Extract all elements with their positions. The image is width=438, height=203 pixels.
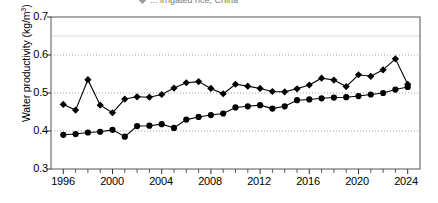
- data-point-marker: [318, 75, 325, 82]
- data-point-marker: [196, 114, 202, 120]
- axis-ticks: [47, 17, 408, 174]
- x-tick-label: 2008: [190, 176, 230, 187]
- data-point-marker: [257, 102, 263, 108]
- x-tick-label: 1996: [43, 176, 83, 187]
- x-tick-label: 2024: [386, 176, 426, 187]
- data-point-marker: [293, 85, 300, 92]
- data-point-marker: [269, 105, 275, 111]
- data-point-marker: [159, 121, 165, 127]
- data-point-marker: [146, 123, 152, 129]
- data-point-marker: [208, 112, 214, 118]
- data-point-marker: [405, 84, 411, 90]
- data-point-marker: [85, 129, 91, 135]
- data-point-marker: [294, 97, 300, 103]
- data-point-marker: [60, 101, 67, 108]
- x-tick-label: 2020: [337, 176, 377, 187]
- data-point-marker: [72, 107, 79, 114]
- data-point-marker: [367, 73, 374, 80]
- chart-figure: ... irrigated rice, China Water producti…: [0, 0, 438, 203]
- data-point-marker: [368, 91, 374, 97]
- data-point-marker: [319, 95, 325, 101]
- data-point-marker: [331, 94, 337, 100]
- data-point-marker: [306, 81, 313, 88]
- data-point-marker: [232, 104, 238, 110]
- data-point-marker: [392, 86, 398, 92]
- data-point-marker: [330, 76, 337, 83]
- y-tick-labels: 0.7 0.6 0.5 0.4 0.3: [18, 0, 48, 203]
- x-tick-labels: 1996 2000 2004 2008 2012 2016 2020 2024: [0, 176, 438, 196]
- data-point-marker: [146, 94, 153, 101]
- data-point-marker: [257, 85, 264, 92]
- data-point-marker: [220, 110, 226, 116]
- data-point-marker: [134, 93, 141, 100]
- y-tick-label: 0.3: [22, 163, 48, 174]
- data-point-marker: [60, 132, 66, 138]
- data-point-marker: [122, 134, 128, 140]
- data-point-marker: [282, 103, 288, 109]
- data-point-marker: [244, 83, 251, 90]
- data-point-marker: [134, 123, 140, 129]
- data-point-marker: [158, 91, 165, 98]
- data-point-marker: [306, 96, 312, 102]
- data-point-marker: [281, 88, 288, 95]
- data-point-marker: [195, 78, 202, 85]
- legend-label: ... irrigated rice, China: [150, 0, 238, 5]
- x-tick-label: 2000: [92, 176, 132, 187]
- data-series: [60, 55, 412, 140]
- legend-diamond-marker-icon: [139, 0, 146, 4]
- y-tick-label: 0.5: [22, 87, 48, 98]
- data-point-marker: [170, 84, 177, 91]
- data-point-marker: [97, 129, 103, 135]
- x-tick-label: 2004: [141, 176, 181, 187]
- data-point-marker: [355, 93, 361, 99]
- data-point-marker: [109, 127, 115, 133]
- y-tick-label: 0.4: [22, 125, 48, 136]
- plot-area: [0, 0, 438, 203]
- data-point-marker: [245, 103, 251, 109]
- data-point-marker: [380, 90, 386, 96]
- legend: ... irrigated rice, China: [0, 0, 438, 7]
- data-point-marker: [207, 85, 214, 92]
- data-point-marker: [343, 94, 349, 100]
- data-point-marker: [97, 102, 104, 109]
- x-tick-label: 2016: [288, 176, 328, 187]
- y-tick-label: 0.7: [22, 11, 48, 22]
- plot-frame: [51, 17, 420, 169]
- data-point-marker: [73, 131, 79, 137]
- data-point-marker: [269, 88, 276, 95]
- data-point-marker: [171, 125, 177, 131]
- data-point-marker: [183, 79, 190, 86]
- x-tick-label: 2012: [239, 176, 279, 187]
- data-point-marker: [84, 76, 91, 83]
- data-point-marker: [183, 117, 189, 123]
- y-tick-label: 0.6: [22, 49, 48, 60]
